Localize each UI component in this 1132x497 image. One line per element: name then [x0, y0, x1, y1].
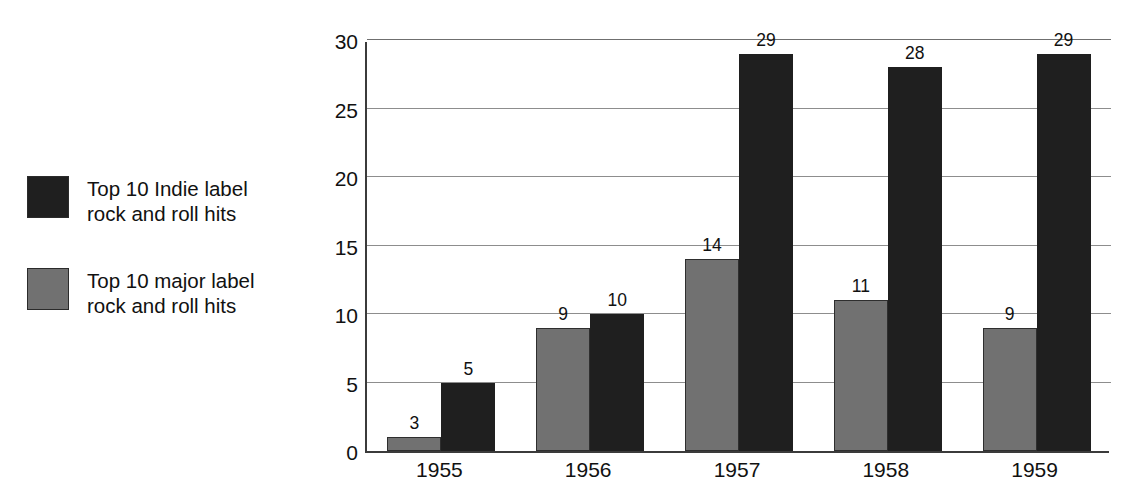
x-tick-label-1956: 1956 [565, 458, 612, 482]
bar-chart-figure: Top 10 Indie label rock and roll hits To… [0, 0, 1132, 497]
bar-series-group: 3591014291128929 [367, 40, 1111, 451]
bar-value-label-major-1959: 9 [1005, 304, 1015, 325]
y-tick-label-5: 5 [310, 373, 358, 397]
bar-value-label-indie-1955: 5 [464, 359, 474, 380]
x-tick-label-1957: 1957 [714, 458, 761, 482]
legend-label-major: Top 10 major label rock and roll hits [87, 268, 255, 318]
y-tick-label-10: 10 [310, 304, 358, 328]
legend-swatch-major-icon [27, 268, 69, 310]
chart-legend: Top 10 Indie label rock and roll hits To… [27, 176, 307, 360]
legend-item-indie: Top 10 Indie label rock and roll hits [27, 176, 307, 226]
bar-value-label-indie-1958: 28 [905, 43, 924, 64]
y-tick-label-0: 0 [310, 441, 358, 465]
bar-indie-1956 [590, 314, 644, 451]
legend-swatch-indie-icon [27, 176, 69, 218]
x-tick-label-1955: 1955 [416, 458, 463, 482]
plot-area: 3591014291128929 [365, 42, 1109, 453]
bar-major-1959 [983, 328, 1037, 451]
bar-indie-1959 [1037, 54, 1091, 451]
y-tick-label-30: 30 [310, 30, 358, 54]
x-tick-label-1958: 1958 [862, 458, 909, 482]
bar-indie-1958 [888, 67, 942, 451]
bar-value-label-indie-1956: 10 [607, 290, 626, 311]
y-axis: 051015202530 [310, 0, 358, 497]
bar-indie-1957 [739, 54, 793, 451]
bar-major-1958 [834, 300, 888, 451]
y-tick-label-20: 20 [310, 167, 358, 191]
bar-indie-1955 [441, 383, 495, 452]
bar-value-label-indie-1959: 29 [1054, 30, 1073, 51]
x-tick-label-1959: 1959 [1011, 458, 1058, 482]
legend-item-major: Top 10 major label rock and roll hits [27, 268, 307, 318]
bar-value-label-major-1956: 9 [558, 304, 568, 325]
y-tick-label-15: 15 [310, 236, 358, 260]
legend-label-indie: Top 10 Indie label rock and roll hits [87, 176, 248, 226]
bar-value-label-major-1957: 14 [702, 235, 721, 256]
bar-major-1957 [685, 259, 739, 451]
bar-major-1955 [387, 437, 441, 451]
bar-major-1956 [536, 328, 590, 451]
x-axis: 19551956195719581959 [365, 458, 1109, 492]
y-tick-label-25: 25 [310, 99, 358, 123]
bar-value-label-major-1955: 3 [410, 413, 420, 434]
bar-value-label-indie-1957: 29 [756, 30, 775, 51]
bar-value-label-major-1958: 11 [852, 276, 870, 297]
